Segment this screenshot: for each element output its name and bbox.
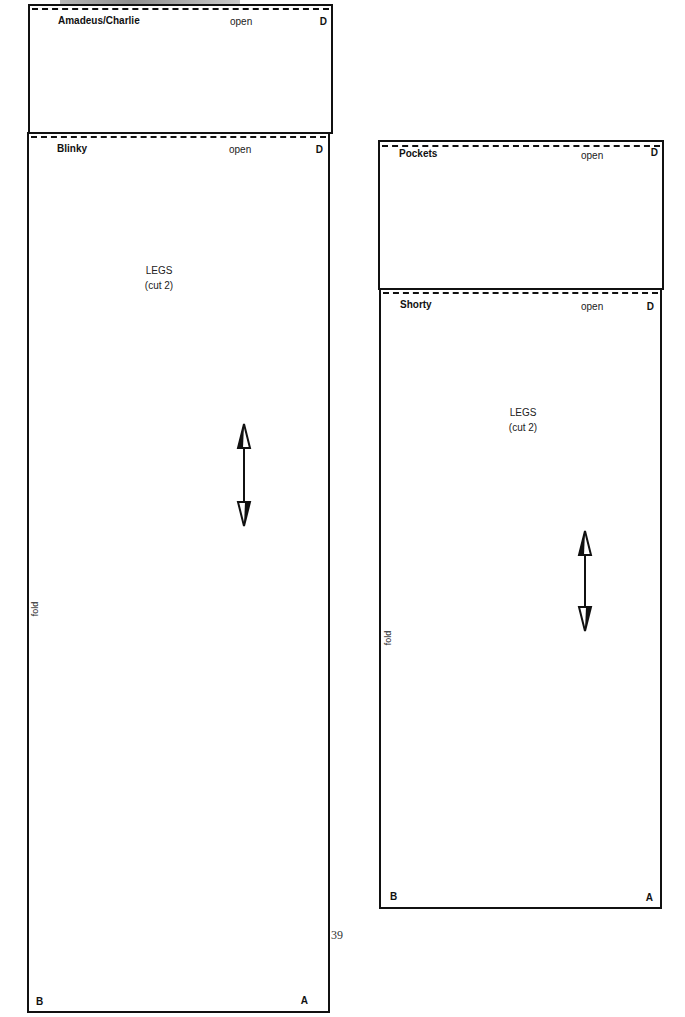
corner-d: D [647, 301, 654, 312]
piece-title-block: LEGS (cut 2) [483, 405, 563, 435]
corner-d: D [316, 144, 323, 155]
piece-amadeus-charlie: Amadeus/Charlie open D [28, 4, 333, 134]
edge-label-open: open [229, 144, 251, 155]
edge-label-open: open [581, 301, 603, 312]
page-number: 39 [331, 928, 343, 943]
fold-label: fold [383, 631, 393, 646]
piece-title: LEGS [483, 405, 563, 420]
corner-b: B [36, 996, 43, 1007]
grainline-arrow-icon [234, 422, 254, 528]
dashed-line [383, 292, 658, 294]
piece-subtitle: (cut 2) [119, 278, 199, 293]
corner-a: A [646, 892, 653, 903]
corner-a: A [301, 995, 308, 1006]
piece-title: LEGS [119, 263, 199, 278]
edge-label-open: open [230, 16, 252, 27]
piece-pockets: Pockets open D [378, 140, 664, 290]
piece-name: Blinky [57, 143, 87, 154]
dashed-line [32, 8, 329, 10]
grainline-arrow-icon [575, 529, 595, 633]
fold-label: fold [30, 602, 40, 617]
piece-subtitle: (cut 2) [483, 420, 563, 435]
edge-label-open: open [581, 150, 603, 161]
dashed-line [382, 145, 660, 147]
corner-d: D [320, 16, 327, 27]
piece-blinky: Blinky open D LEGS (cut 2) fold B A [27, 132, 330, 1013]
corner-b: B [390, 891, 397, 902]
piece-title-block: LEGS (cut 2) [119, 263, 199, 293]
dashed-line [31, 136, 326, 138]
corner-d: D [651, 147, 658, 158]
piece-shorty: Shorty open D LEGS (cut 2) fold B A [379, 288, 662, 909]
piece-name: Pockets [399, 148, 437, 159]
piece-name: Amadeus/Charlie [58, 15, 140, 26]
piece-name: Shorty [400, 299, 432, 310]
